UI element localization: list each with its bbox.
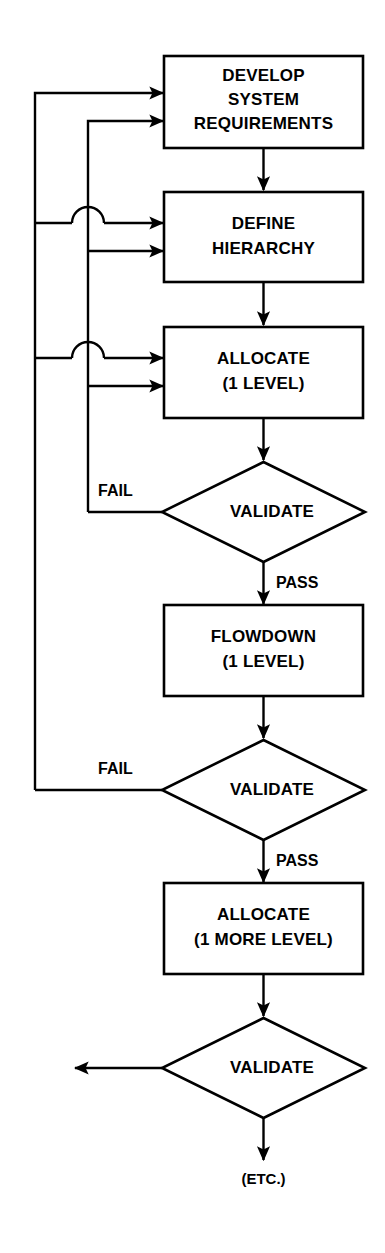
node-allocate-1-more-level (164, 883, 363, 974)
node-develop-line-1: DEVELOP (222, 66, 305, 85)
inner-feedback-bus (88, 121, 163, 512)
edge-label-pass-1: PASS (276, 574, 319, 591)
edge-label-fail-1: FAIL (98, 482, 133, 499)
node-allocate2-line-2: (1 MORE LEVEL) (194, 930, 333, 949)
node-develop-line-2: SYSTEM (228, 90, 299, 109)
node-validate1-label: VALIDATE (230, 502, 314, 521)
node-allocate-1-level (164, 327, 363, 418)
node-allocate1-line-2: (1 LEVEL) (222, 374, 304, 393)
node-etc-label: (ETC.) (241, 1170, 285, 1187)
node-validate2-label: VALIDATE (230, 780, 314, 799)
flowchart-canvas: DEVELOP SYSTEM REQUIREMENTS DEFINE HIERA… (0, 0, 385, 1253)
node-allocate1-line-1: ALLOCATE (217, 349, 310, 368)
node-allocate2-line-1: ALLOCATE (217, 905, 310, 924)
edge-label-fail-2: FAIL (98, 760, 133, 777)
node-validate3-label: VALIDATE (230, 1058, 314, 1077)
node-flowdown-line-1: FLOWDOWN (211, 627, 316, 646)
node-define-hierarchy (164, 192, 363, 282)
node-flowdown-1-level (164, 605, 363, 696)
node-define-line-2: HIERARCHY (212, 239, 315, 258)
node-define-line-1: DEFINE (232, 214, 296, 233)
edge-label-pass-2: PASS (276, 852, 319, 869)
flowchart-diagram: DEVELOP SYSTEM REQUIREMENTS DEFINE HIERA… (0, 0, 385, 1253)
node-develop-line-3: REQUIREMENTS (194, 114, 333, 133)
node-flowdown-line-2: (1 LEVEL) (222, 652, 304, 671)
outer-feedback-bus (35, 93, 163, 790)
